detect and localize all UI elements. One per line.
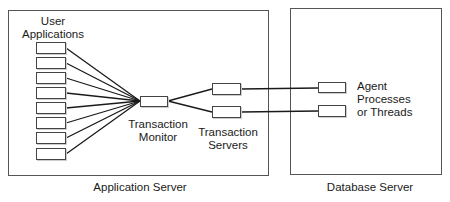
database-server-label: Database Server	[300, 181, 440, 194]
user-applications-label: User Applications	[18, 15, 88, 41]
user-application-box	[36, 42, 66, 54]
user-application-box	[36, 87, 66, 99]
user-application-box	[36, 57, 66, 69]
user-application-box	[36, 148, 66, 160]
transaction-monitor-label: Transaction Monitor	[118, 118, 198, 144]
user-application-box	[36, 102, 66, 114]
agent-process-box	[318, 82, 346, 93]
agent-processes-label: Agent Processes or Threads	[357, 80, 412, 119]
transaction-server-box	[212, 106, 241, 118]
transaction-server-box	[212, 83, 241, 95]
agent-process-box	[318, 105, 346, 117]
transaction-servers-label: Transaction Servers	[188, 126, 268, 152]
transaction-monitor-box	[140, 96, 168, 107]
user-application-box	[36, 117, 66, 129]
user-application-box	[36, 132, 66, 144]
user-application-box	[36, 72, 66, 84]
application-server-label: Application Server	[60, 181, 220, 194]
